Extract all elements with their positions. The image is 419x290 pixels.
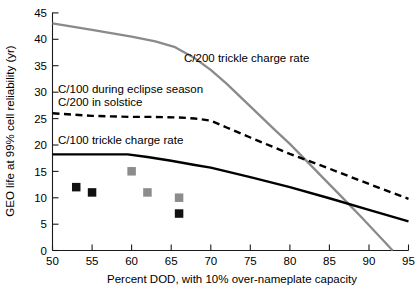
y-tick-label-20: 20 (34, 139, 47, 151)
scatter-marker (143, 188, 152, 197)
chart-figure: 45 40 35 30 25 20 15 10 5 0 50 5 (0, 0, 419, 290)
y-axis-title: GEO life at 99% cell reliability (yr) (4, 45, 16, 216)
y-tick-labels: 45 40 35 30 25 20 15 10 5 0 (34, 7, 47, 257)
scatter-marker (175, 193, 184, 202)
annotation-eclipse-line2: C/200 in solstice (58, 96, 142, 108)
annotation-c200-trickle: C/200 trickle charge rate (184, 52, 309, 64)
y-tick-label-40: 40 (34, 33, 47, 45)
scatter-marker (72, 183, 81, 192)
chart-plot-area: 45 40 35 30 25 20 15 10 5 0 50 5 (0, 0, 419, 290)
y-tick-label-35: 35 (34, 60, 47, 72)
x-tick-label-80: 80 (284, 255, 297, 267)
x-tick-label-65: 65 (165, 255, 178, 267)
x-tick-label-90: 90 (363, 255, 376, 267)
x-axis-title: Percent DOD, with 10% over-nameplate cap… (107, 273, 357, 285)
annotation-c100-trickle: C/100 trickle charge rate (58, 134, 183, 146)
scatter-marker (88, 188, 97, 197)
scatter-marker (127, 167, 136, 176)
x-tick-label-60: 60 (125, 255, 138, 267)
x-tick-label-70: 70 (204, 255, 217, 267)
x-tick-label-55: 55 (86, 255, 99, 267)
y-tick-group (53, 13, 59, 251)
y-tick-label-25: 25 (34, 113, 47, 125)
y-tick-label-30: 30 (34, 86, 47, 98)
series-line-c100-eclipse-c200-solstice (53, 113, 409, 199)
y-tick-label-45: 45 (34, 7, 47, 19)
x-tick-label-95: 95 (402, 255, 415, 267)
x-tick-group (53, 245, 409, 251)
y-tick-label-15: 15 (34, 166, 47, 178)
annotation-group: C/200 trickle charge rate C/100 during e… (58, 52, 309, 146)
x-tick-labels: 50 55 60 65 70 75 80 85 90 95 (46, 255, 415, 267)
y-tick-label-10: 10 (34, 192, 47, 204)
axis-group (53, 13, 409, 251)
x-tick-label-50: 50 (46, 255, 59, 267)
y-tick-label-5: 5 (41, 218, 47, 230)
scatter-marker-group (72, 167, 183, 218)
annotation-eclipse-line1: C/100 during eclipse season (58, 83, 203, 95)
x-tick-label-85: 85 (323, 255, 336, 267)
x-tick-label-75: 75 (244, 255, 257, 267)
scatter-marker (175, 209, 184, 218)
